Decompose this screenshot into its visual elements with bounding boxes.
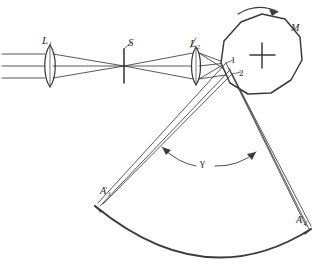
label-slit-S: S (128, 37, 134, 48)
converging-ray-bundle-L1-to-slit (53, 54, 124, 78)
label-facet-point-1: 1 (231, 56, 236, 65)
label-image-point-A1-prime: A′1 (100, 186, 111, 197)
label-lens-L1: L1 (42, 35, 52, 48)
slit-S (124, 42, 132, 83)
scan-angle-gamma-indicator (162, 147, 256, 166)
diverging-ray-bundle-slit-to-L2 (124, 53, 193, 79)
polygon-mirror-M (221, 14, 302, 94)
label-scan-angle-gamma: γ (200, 157, 205, 168)
incoming-ray-bundle (2, 54, 45, 78)
label-facet-point-2: 2 (239, 69, 244, 78)
label-mirror-M: M (291, 23, 299, 33)
label-image-point-A2-prime: A′2 (296, 215, 307, 226)
rotation-arrow-icon (238, 7, 278, 16)
focal-surface-arc (95, 206, 311, 258)
label-lens-L2: L2 (190, 38, 200, 51)
reflected-beam-to-A1 (98, 63, 232, 206)
optics-figure: L1 S L2 M 1 2 γ A′1 A′2 (0, 0, 324, 277)
